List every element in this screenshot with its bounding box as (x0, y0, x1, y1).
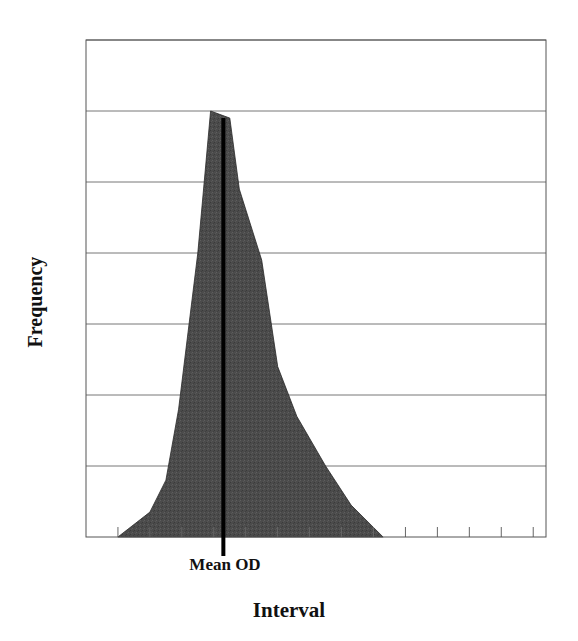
area-chart (0, 0, 578, 641)
horizontal-gridlines (86, 40, 546, 466)
mean-od-label: Mean OD (170, 555, 280, 575)
y-axis-label: Frequency (24, 252, 48, 352)
x-axis-label: Interval (0, 598, 578, 623)
